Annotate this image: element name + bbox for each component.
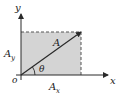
angle-theta-label: θ — [39, 64, 45, 74]
svg-text:A: A — [3, 48, 11, 59]
svg-text:x: x — [56, 87, 60, 95]
svg-text:y: y — [10, 54, 16, 62]
origin-label: o — [12, 75, 18, 85]
vector-diagram: y x o A θ A y A x — [0, 0, 120, 95]
y-component-label: A y — [3, 48, 16, 62]
x-component-label: A x — [48, 81, 60, 95]
y-axis-label: y — [14, 2, 21, 13]
vector-a-label: A — [52, 37, 60, 48]
x-axis-label: x — [110, 75, 116, 86]
svg-text:A: A — [48, 81, 56, 92]
